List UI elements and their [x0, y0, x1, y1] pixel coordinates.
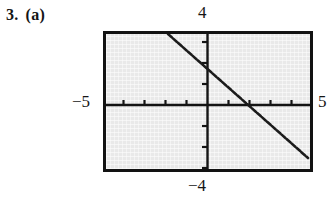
plot-area [106, 34, 310, 169]
axis-label-xmax: 5 [318, 92, 327, 112]
plotted-line [168, 34, 308, 158]
axis-label-ymin: −4 [188, 176, 206, 196]
problem-label: 3.(a) [6, 6, 45, 24]
problem-number: 3. [6, 6, 19, 23]
axis-label-ymax: 4 [198, 3, 207, 23]
problem-part: (a) [26, 6, 46, 23]
graphing-calculator-window [103, 31, 313, 172]
worksheet-figure: 3.(a) 4 −4 −5 5 [0, 0, 334, 208]
axis-label-xmin: −5 [72, 92, 90, 112]
